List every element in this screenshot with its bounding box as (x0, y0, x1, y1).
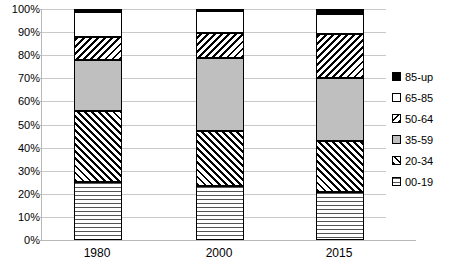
plot-area (41, 9, 385, 240)
bar-segment-1980-00-19[interactable] (74, 182, 122, 240)
stacked-bar-chart: 100%90%80%70%60%50%40%30%20%10%0% 198020… (0, 0, 460, 269)
bar-1980[interactable] (74, 9, 122, 240)
y-axis-tick-label: 40% (2, 143, 40, 153)
bar-segment-2015-85-up[interactable] (316, 9, 364, 14)
legend-item-20-34[interactable]: 20-34 (392, 150, 460, 171)
y-axis-tick-label: 90% (2, 27, 40, 37)
bar-segment-2000-50-64[interactable] (196, 33, 244, 57)
bar-segment-1980-85-up[interactable] (74, 9, 122, 12)
bar-segment-2000-65-85[interactable] (196, 11, 244, 33)
y-axis-tick-label: 10% (2, 212, 40, 222)
y-axis-tick-label: 0% (2, 235, 40, 245)
bar-segment-2000-00-19[interactable] (196, 186, 244, 240)
legend-swatch-icon (392, 72, 401, 81)
bar-segment-1980-35-59[interactable] (74, 60, 122, 111)
bar-segment-1980-50-64[interactable] (74, 37, 122, 60)
y-axis-tick-label: 80% (2, 50, 40, 60)
bar-segment-2000-35-59[interactable] (196, 58, 244, 132)
x-axis-line (41, 240, 416, 241)
y-axis-tick-label: 70% (2, 73, 40, 83)
legend-swatch-icon (392, 135, 401, 144)
bar-segment-2000-85-up[interactable] (196, 9, 244, 11)
y-axis-tick-label: 20% (2, 189, 40, 199)
bar-2000[interactable] (196, 9, 244, 240)
legend-item-00-19[interactable]: 00-19 (392, 171, 460, 192)
legend-item-label: 00-19 (405, 176, 433, 188)
bar-segment-1980-20-34[interactable] (74, 111, 122, 183)
bar-segment-1980-65-85[interactable] (74, 12, 122, 36)
legend-item-label: 35-59 (405, 134, 433, 146)
legend-item-label: 20-34 (405, 155, 433, 167)
bar-2015[interactable] (316, 9, 364, 240)
y-axis: 100%90%80%70%60%50%40%30%20%10%0% (0, 0, 40, 269)
legend-item-label: 65-85 (405, 92, 433, 104)
legend-item-50-64[interactable]: 50-64 (392, 108, 460, 129)
legend-item-65-85[interactable]: 65-85 (392, 87, 460, 108)
bar-segment-2000-20-34[interactable] (196, 131, 244, 185)
legend-item-label: 50-64 (405, 113, 433, 125)
y-axis-tick-label: 30% (2, 166, 40, 176)
bar-segment-2015-50-64[interactable] (316, 34, 364, 78)
bar-segment-2015-65-85[interactable] (316, 14, 364, 35)
legend-item-85-up[interactable]: 85-up (392, 66, 460, 87)
bar-segment-2015-20-34[interactable] (316, 141, 364, 192)
legend-swatch-icon (392, 156, 401, 165)
x-axis-tick-label: 2000 (179, 246, 259, 260)
chart-legend: 85-up65-8550-6435-5920-3400-19 (392, 66, 460, 192)
y-axis-tick-label: 100% (2, 4, 40, 14)
bar-segment-2015-35-59[interactable] (316, 78, 364, 140)
bar-segment-2015-00-19[interactable] (316, 192, 364, 241)
x-axis-tick-label: 1980 (57, 246, 137, 260)
y-axis-tick-label: 50% (2, 120, 40, 130)
legend-swatch-icon (392, 177, 401, 186)
y-axis-tick-label: 60% (2, 96, 40, 106)
legend-swatch-icon (392, 114, 401, 123)
x-axis-tick-label: 2015 (299, 246, 379, 260)
legend-item-label: 85-up (405, 71, 433, 83)
legend-swatch-icon (392, 93, 401, 102)
legend-item-35-59[interactable]: 35-59 (392, 129, 460, 150)
